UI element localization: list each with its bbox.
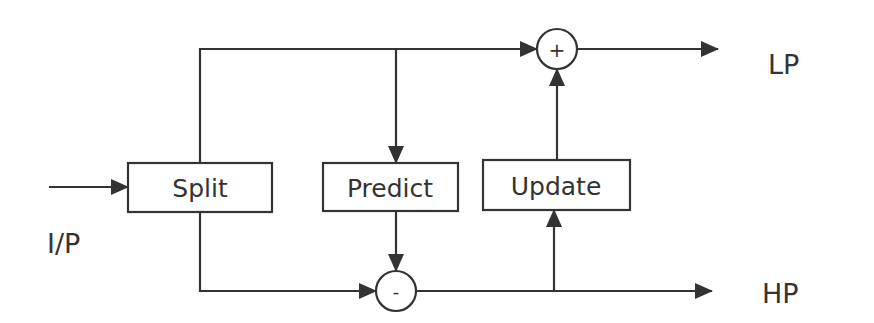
split-top-path [200,49,537,163]
subtractor-symbol: - [393,281,400,302]
hp-label: HP [762,278,799,309]
predict-label: Predict [347,174,433,203]
lp-label: LP [768,49,799,80]
lifting-scheme-diagram: Split Predict Update + - I/P LP HP [0,0,874,323]
split-bottom-path [200,212,376,291]
update-label: Update [511,172,602,201]
split-label: Split [172,174,228,203]
adder-symbol: + [549,38,566,62]
input-label: I/P [47,228,80,259]
